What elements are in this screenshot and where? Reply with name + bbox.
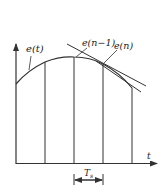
diagram-canvas: e(t) e(n−1) e(n) t Ts: [0, 0, 165, 192]
label-e-n: e(n): [114, 40, 133, 51]
label-e-n-minus-1: e(n−1): [82, 37, 115, 48]
label-period: Ts: [84, 168, 93, 179]
leader-e-n: [104, 50, 117, 63]
tangent-line: [67, 44, 146, 86]
label-e-t: e(t): [26, 43, 44, 54]
label-t-axis: t: [147, 151, 151, 161]
sample-lines: [45, 57, 132, 164]
leader-e-t: [29, 56, 31, 70]
